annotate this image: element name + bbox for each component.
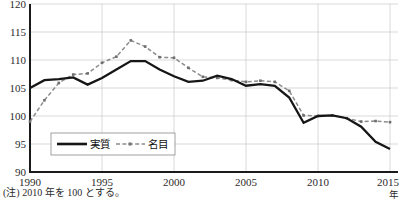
series-marker-nominal — [274, 81, 277, 84]
series-marker-nominal — [72, 73, 75, 76]
series-marker-nominal — [144, 45, 147, 48]
series-marker-nominal — [302, 114, 305, 117]
series-marker-nominal — [130, 39, 133, 42]
ytick-label-105: 105 — [10, 82, 27, 94]
series-marker-nominal — [187, 67, 190, 70]
series-marker-nominal — [288, 90, 291, 93]
ytick-label-95: 95 — [15, 138, 27, 150]
series-marker-nominal — [43, 99, 46, 102]
y-axis-tick-labels: 120 115 110 105 100 95 90 — [10, 0, 27, 178]
ytick-label-100: 100 — [10, 110, 27, 122]
series-marker-nominal — [259, 79, 262, 82]
series-marker-nominal — [374, 120, 377, 123]
ytick-label-120: 120 — [10, 0, 27, 10]
xtick-label-2000: 2000 — [163, 176, 186, 188]
series-marker-nominal — [173, 56, 176, 59]
series-marker-nominal — [245, 81, 248, 84]
xtick-label-2015: 2015 — [377, 176, 400, 188]
series-line-nominal — [30, 40, 390, 122]
chart-footnote: (注) 2010 年を 100 とする。 — [3, 187, 125, 199]
series-marker-nominal — [29, 120, 32, 123]
legend-label-nominal: 名目 — [148, 138, 168, 150]
xtick-label-2005: 2005 — [235, 176, 258, 188]
series-marker-nominal — [86, 72, 89, 75]
series-marker-nominal — [115, 55, 118, 58]
index-line-chart: 120 115 110 105 100 95 90 1990 1995 2000… — [0, 0, 401, 200]
series-marker-nominal — [101, 62, 104, 65]
series-marker-nominal — [158, 56, 161, 59]
series-marker-nominal — [202, 76, 205, 79]
series-marker-nominal — [58, 82, 61, 85]
x-axis-unit-label: 年 — [389, 189, 399, 200]
ytick-label-115: 115 — [10, 26, 27, 38]
legend-marker-nominal — [129, 143, 132, 146]
xtick-label-2010: 2010 — [307, 176, 330, 188]
legend-label-real: 実質 — [90, 138, 110, 150]
ytick-label-110: 110 — [10, 54, 27, 66]
chart-figure: 120 115 110 105 100 95 90 1990 1995 2000… — [0, 0, 401, 200]
series-marker-nominal — [360, 120, 363, 123]
legend: 実質 名目 — [51, 133, 175, 155]
series-marker-nominal — [389, 121, 392, 124]
